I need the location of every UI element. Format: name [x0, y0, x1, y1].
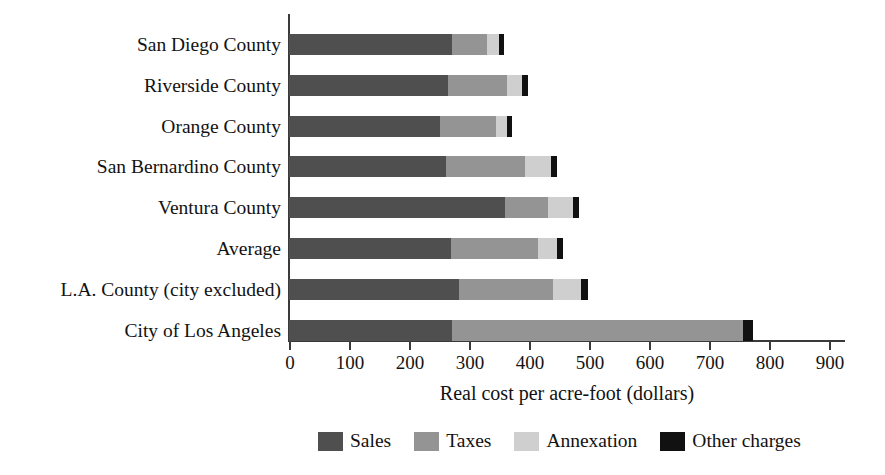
- bar-segment-other-charges: [551, 156, 557, 177]
- category-label: Orange County: [4, 116, 289, 137]
- bar-segment-annexation: [553, 279, 581, 300]
- bar-segment-annexation: [507, 75, 522, 96]
- bar-segment-taxes: [505, 197, 548, 218]
- bar-segment-sales: [289, 156, 446, 177]
- bar-row: [289, 75, 528, 96]
- x-axis-tick: [469, 342, 471, 350]
- bar-segment-annexation: [538, 238, 557, 259]
- category-label: City of Los Angeles: [4, 320, 289, 341]
- bar-row: [289, 320, 753, 341]
- bar-segment-other-charges: [573, 197, 579, 218]
- legend-label: Annexation: [546, 430, 637, 452]
- y-axis-category-labels: San Diego CountyRiverside CountyOrange C…: [0, 14, 289, 340]
- bar-row: [289, 116, 512, 137]
- bar-segment-annexation: [496, 116, 507, 137]
- legend-swatch-icon: [318, 432, 343, 451]
- bar-segment-taxes: [448, 75, 507, 96]
- bars-container: [289, 14, 845, 340]
- category-label: San Bernardino County: [4, 156, 289, 177]
- x-axis-tick: [529, 342, 531, 350]
- bar-segment-sales: [289, 34, 452, 55]
- bar-segment-taxes: [451, 238, 538, 259]
- x-axis-tick: [409, 342, 411, 350]
- bar-segment-annexation: [525, 156, 550, 177]
- chart-legend: SalesTaxesAnnexationOther charges: [318, 427, 878, 455]
- bar-segment-other-charges: [581, 279, 588, 300]
- x-axis-tick: [829, 342, 831, 350]
- stacked-bar-chart: 0100200300400500600700800900 San Diego C…: [0, 0, 885, 475]
- legend-item[interactable]: Taxes: [414, 430, 491, 452]
- x-axis-tick: [709, 342, 711, 350]
- category-label: Ventura County: [4, 197, 289, 218]
- bar-segment-other-charges: [743, 320, 753, 341]
- bar-row: [289, 279, 588, 300]
- x-axis-tick-label: 800: [740, 351, 800, 375]
- legend-swatch-icon: [514, 432, 539, 451]
- bar-segment-taxes: [452, 320, 743, 341]
- x-axis-tick: [649, 342, 651, 350]
- bar-segment-other-charges: [507, 116, 512, 137]
- x-axis-tick-label: 0: [260, 351, 320, 375]
- category-label: Average: [4, 238, 289, 259]
- x-axis-tick: [769, 342, 771, 350]
- bar-row: [289, 238, 563, 259]
- x-axis-title: Real cost per acre-foot (dollars): [289, 382, 845, 405]
- x-axis-tick-label: 600: [620, 351, 680, 375]
- x-axis-tick-label: 100: [320, 351, 380, 375]
- bar-row: [289, 156, 557, 177]
- x-axis-tick-label: 700: [680, 351, 740, 375]
- legend-swatch-icon: [660, 432, 685, 451]
- x-axis-tick-label: 300: [440, 351, 500, 375]
- bar-segment-sales: [289, 279, 459, 300]
- x-axis-tick-label: 400: [500, 351, 560, 375]
- legend-item[interactable]: Annexation: [514, 430, 637, 452]
- legend-label: Taxes: [446, 430, 491, 452]
- bar-segment-annexation: [548, 197, 573, 218]
- x-axis-tick-label: 900: [800, 351, 860, 375]
- legend-label: Sales: [350, 430, 391, 452]
- bar-segment-sales: [289, 197, 505, 218]
- bar-row: [289, 197, 579, 218]
- bar-segment-sales: [289, 238, 451, 259]
- bar-segment-taxes: [452, 34, 487, 55]
- category-label: San Diego County: [4, 34, 289, 55]
- x-axis-tick: [349, 342, 351, 350]
- legend-swatch-icon: [414, 432, 439, 451]
- x-axis-tick-label: 500: [560, 351, 620, 375]
- legend-item[interactable]: Sales: [318, 430, 391, 452]
- bar-segment-taxes: [446, 156, 526, 177]
- bar-segment-taxes: [440, 116, 496, 137]
- x-axis-tick: [589, 342, 591, 350]
- legend-label: Other charges: [692, 430, 800, 452]
- bar-segment-other-charges: [557, 238, 562, 259]
- bar-segment-other-charges: [499, 34, 504, 55]
- bar-segment-sales: [289, 116, 440, 137]
- bar-segment-other-charges: [522, 75, 528, 96]
- category-label: Riverside County: [4, 75, 289, 96]
- bar-segment-sales: [289, 75, 448, 96]
- bar-segment-annexation: [487, 34, 499, 55]
- x-axis-tick: [289, 342, 291, 350]
- bar-segment-sales: [289, 320, 452, 341]
- bar-row: [289, 34, 504, 55]
- bar-segment-taxes: [459, 279, 553, 300]
- legend-item[interactable]: Other charges: [660, 430, 800, 452]
- x-axis-tick-label: 200: [380, 351, 440, 375]
- category-label: L.A. County (city excluded): [4, 279, 289, 300]
